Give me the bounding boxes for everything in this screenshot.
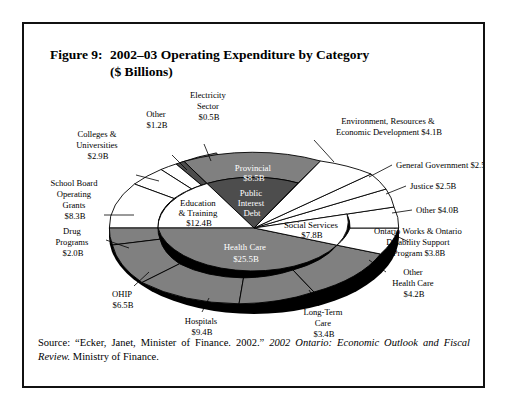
label-colleges-universities: Colleges & Universities $2.9B xyxy=(76,129,120,161)
label-long-term-care: Long-Term Care $3.4B xyxy=(303,307,344,339)
figure-number: Figure 9: xyxy=(50,46,110,63)
source-italic-1: 2002 Ontario: Economic Outlook xyxy=(269,337,418,348)
label-hospitals: Hospitals $9.4B xyxy=(185,316,220,337)
leader-justice xyxy=(386,186,406,194)
page-title: Figure 9:2002–03 Operating Expenditure b… xyxy=(50,46,460,80)
figure-title-line2: ($ Billions) xyxy=(110,63,460,80)
pie-chart: Provincial $8.5B Public Interest Debt Ed… xyxy=(24,82,483,340)
figure-frame: Figure 9:2002–03 Operating Expenditure b… xyxy=(22,22,485,388)
label-general-government: General Government $2.5B xyxy=(396,160,483,170)
leader-general-government xyxy=(369,165,392,177)
source-suffix: Ministry of Finance. xyxy=(70,351,159,362)
label-other-health-care: Other Health Care $4.2B xyxy=(392,267,435,299)
label-other-social-services: Other $4.0B xyxy=(416,205,459,215)
source-note: Source: “Ecker, Janet, Minister of Finan… xyxy=(38,336,470,363)
label-ohip: OHIP $6.5B xyxy=(112,289,134,310)
label-drug-programs: Drug Programs $2.0B xyxy=(55,226,90,258)
label-other-education: Other $1.2B xyxy=(146,109,168,130)
pie-chart-svg: Provincial $8.5B Public Interest Debt Ed… xyxy=(24,82,483,340)
label-electricity-sector: Electricity Sector $0.5B xyxy=(190,90,228,122)
label-environment-resources: Environment, Resources & Economic Develo… xyxy=(336,116,442,137)
label-school-board-grants: School Board Operating Grants $8.3B xyxy=(50,178,99,221)
label-justice: Justice $2.5B xyxy=(410,181,457,191)
figure-title-line1: 2002–03 Operating Expenditure by Categor… xyxy=(110,46,440,63)
leader-environment xyxy=(314,140,334,162)
source-prefix: Source: “Ecker, Janet, Minister of Finan… xyxy=(38,337,269,348)
